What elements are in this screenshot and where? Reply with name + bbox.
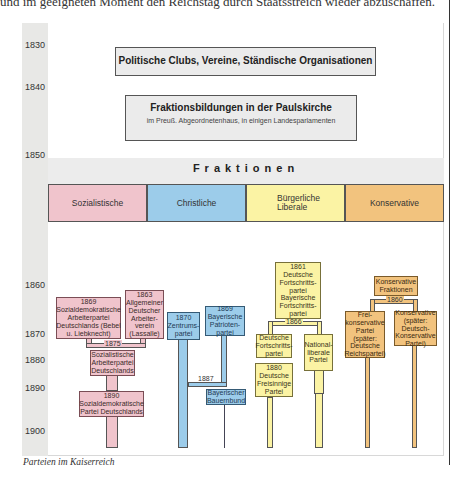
figure-caption: Parteien im Kaiserreich [23,457,114,467]
year-label: 1890 [25,383,45,393]
split-bar [188,382,227,387]
bauernbund-stem [224,404,225,448]
party-bayerische-patrioten: 1869 Bayerische Patrioten-partei [205,306,245,336]
sap-stem [106,375,118,391]
party-deutsche-freisinnige: 1880 Deutsche Freisinnige Partei [255,363,293,397]
year-label: 1870 [25,329,45,339]
connector [268,321,273,335]
paulskirche-box: Fraktionsbildungen in der Paulskirche im… [125,95,357,141]
merge-year-1875: 1875 [104,340,122,347]
freikons-stem [365,357,370,448]
kons-partei-stem [412,345,417,448]
year-label: 1850 [25,150,45,160]
party-zentrum: 1870 Zentrums-partei [167,312,200,340]
zentrum-stem [178,338,188,448]
paulskirche-title: Fraktionsbildungen in der Paulskirche [126,102,356,113]
party-nationalliberale: National-liberale Partei [304,334,333,371]
party-konservative-fraktionen: Konservative Fraktionen [374,276,418,296]
party-freikonservative: Frei-konservative Partei (später: Deutsc… [345,311,385,358]
nationalliberal-stem-upper [314,370,324,394]
nationalliberal-stem-lower [315,393,323,448]
year-label: 1880 [25,355,45,365]
party-bayerischer-bauernbund: Bayerischer Bauernbund [206,389,246,405]
split-year-1866: 1866 [285,318,303,325]
split-year-1860: 1860 [386,296,404,303]
party-spd: 1890 Sozialdemokratische Partei Deutschl… [79,391,144,417]
connector [317,321,322,335]
body-text-line: und im geeigneten Moment den Reichstag d… [0,0,440,10]
party-sap: Sozialistische Arbeiterpartei Deutschlan… [90,350,135,376]
year-label: 1840 [25,82,45,92]
party-adav: 1863 Allgemeiner Deutscher Arbeiter-vere… [125,290,164,339]
category-konservative: Konservative [345,184,444,222]
patrioten-stem [221,335,227,385]
party-fortschritt-1861: 1861 Deutsche Fortschritts-partei Bayeri… [275,262,321,319]
split-year-1887: 1887 [197,375,215,382]
page-margin-rule [449,0,450,465]
year-label: 1830 [25,40,45,50]
party-deutsche-fortschrittspartei: Deutsche Fortschritts-partei [256,334,292,358]
category-buergerliche-liberale: Bürgerliche Liberale [246,184,345,222]
year-label: 1860 [25,280,45,290]
party-konservative-partei: Konservative (später: Deutsch-Konservati… [394,311,437,346]
party-sdap: 1869 Sozialdemokratische Arbeiterpartei … [56,297,121,339]
clubs-box: Politische Clubs, Vereine, Ständische Or… [115,47,376,76]
year-label: 1900 [25,426,45,436]
freisinn-stem [267,397,273,448]
category-sozialistische: Sozialistische [48,184,147,222]
category-christliche: Christliche [147,184,246,222]
fraktionen-title: Fraktionen [48,162,444,174]
paulskirche-subtitle: im Preuß. Abgeordnetenhaus, in einigen L… [126,117,356,124]
